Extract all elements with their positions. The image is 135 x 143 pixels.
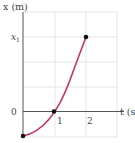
x-tick-1: 1	[57, 116, 63, 126]
y-tick-x1: x1	[11, 32, 20, 43]
y-tick-zero: 0	[11, 107, 17, 117]
start-point	[21, 134, 26, 139]
zero-crossing-point	[52, 109, 57, 114]
position-time-chart: x (m) t (s) 0 x1 1 2	[0, 0, 135, 143]
grid	[23, 12, 117, 137]
x1-point	[84, 35, 89, 40]
x-tick-2: 2	[87, 116, 93, 126]
x-axis-label: t (s)	[120, 106, 135, 117]
y-axis-label: x (m)	[3, 1, 28, 12]
